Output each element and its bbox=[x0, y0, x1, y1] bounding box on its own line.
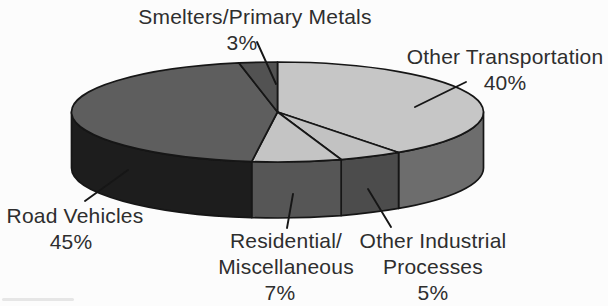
pie-slice-side-residential-miscellaneous bbox=[252, 160, 341, 218]
label-percent: 7% bbox=[212, 280, 348, 306]
label-residential-miscellaneous: Residential/ Miscellaneous 7% bbox=[218, 228, 354, 306]
label-text: Processes bbox=[360, 254, 507, 280]
label-text: Other Transportation bbox=[407, 44, 604, 70]
label-text: Smelters/Primary Metals bbox=[138, 4, 371, 30]
label-text: Residential/ bbox=[218, 228, 354, 254]
label-percent: 3% bbox=[125, 30, 358, 56]
label-percent: 5% bbox=[360, 280, 507, 306]
label-text: Road Vehicles bbox=[7, 203, 144, 229]
label-smelters-primary-metals: Smelters/Primary Metals 3% bbox=[138, 4, 371, 56]
label-percent: 40% bbox=[407, 70, 604, 96]
pie-chart-figure: Smelters/Primary Metals 3% Other Transpo… bbox=[0, 0, 608, 306]
pie-slice-side-other-industrial-processes bbox=[341, 152, 398, 215]
label-other-industrial-processes: Other Industrial Processes 5% bbox=[360, 228, 507, 306]
scan-artifact bbox=[2, 298, 74, 301]
label-percent: 45% bbox=[3, 229, 140, 255]
label-other-transportation: Other Transportation 40% bbox=[407, 44, 604, 96]
label-text: Other Industrial bbox=[360, 228, 507, 254]
label-road-vehicles: Road Vehicles 45% bbox=[7, 203, 144, 255]
label-text: Miscellaneous bbox=[218, 254, 354, 280]
